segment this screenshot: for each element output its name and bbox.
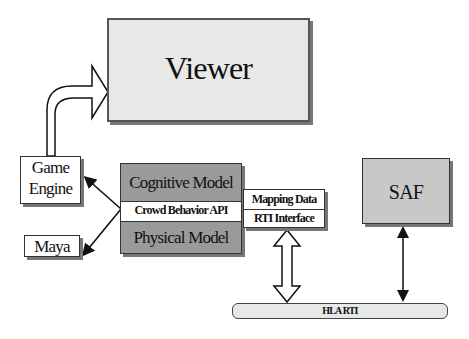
saf-node: SAF <box>362 158 450 224</box>
mapping-data-label: Mapping Data <box>244 192 324 207</box>
viewer-node: Viewer <box>107 18 310 122</box>
game-engine-label-line1: Game <box>21 158 80 178</box>
api-to-maya-arrow <box>84 209 121 254</box>
hla-rti-bus: HLA RTI <box>232 303 448 319</box>
mapping-rti-divider <box>244 209 324 210</box>
physical-model-label: Physical Model <box>121 228 241 248</box>
crowd-behavior-api-label: Crowd Behavior API <box>121 203 241 218</box>
crowd-behavior-api-band: Crowd Behavior API <box>121 201 241 222</box>
cognitive-model-label: Cognitive Model <box>121 173 241 193</box>
game-engine-node: Game Engine <box>20 156 81 204</box>
game-engine-label-line2: Engine <box>21 179 80 199</box>
rti-interface-label: RTI Interface <box>244 211 324 226</box>
game-to-viewer-arrow <box>47 66 108 156</box>
rti-hla-double-arrow <box>274 230 300 302</box>
hla-rti-label: HLA RTI <box>233 305 447 316</box>
saf-label: SAF <box>363 181 449 204</box>
api-to-game-engine-arrow <box>86 178 121 209</box>
crowd-simulation-block: Cognitive Model Crowd Behavior API Physi… <box>120 163 242 254</box>
maya-label: Maya <box>25 237 79 257</box>
mapping-rti-node: Mapping Data RTI Interface <box>243 189 325 228</box>
viewer-label: Viewer <box>109 50 308 87</box>
maya-node: Maya <box>24 235 80 257</box>
